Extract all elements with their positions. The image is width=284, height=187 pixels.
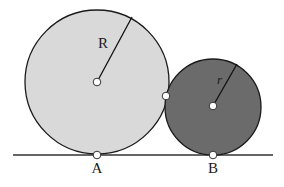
two-circles-diagram: R r A B (0, 0, 284, 187)
tangent-point (162, 92, 170, 100)
point-b (209, 151, 217, 159)
small-center-point (209, 102, 217, 110)
label-a: A (92, 160, 103, 176)
label-large-radius: R (98, 35, 108, 51)
large-center-point (93, 78, 101, 86)
point-a (93, 151, 101, 159)
label-b: B (208, 160, 218, 176)
